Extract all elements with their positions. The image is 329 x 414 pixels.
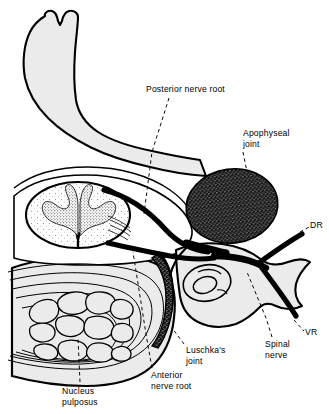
label-anterior-nerve-root-line2: nerve root xyxy=(151,381,191,392)
label-luschka-joint-line2: joint xyxy=(186,356,203,367)
leader-luschka-joint xyxy=(172,328,184,344)
label-luschka-joint-line1: Luschka's xyxy=(186,345,226,356)
label-spinal-nerve-line1: Spinal xyxy=(265,339,290,350)
label-dorsal-ramus: DR xyxy=(310,220,323,231)
label-ventral-ramus: VR xyxy=(305,327,317,338)
transverse-process xyxy=(176,243,310,327)
nucleus-pulposus xyxy=(29,292,133,362)
dorsal-ramus-path xyxy=(260,234,302,262)
label-apophyseal-joint-line2: joint xyxy=(243,139,260,150)
label-nucleus-pulposus-line2: pulposus xyxy=(62,397,98,408)
label-spinal-nerve-line2: nerve xyxy=(265,350,287,361)
label-posterior-nerve-root: Posterior nerve root xyxy=(146,84,225,95)
label-nucleus-pulposus-line1: Nucleus xyxy=(62,386,94,397)
anatomical-figure: Posterior nerve root Apophyseal joint DR… xyxy=(0,0,329,414)
leader-ventral-ramus xyxy=(294,320,304,331)
label-apophyseal-joint-line1: Apophyseal xyxy=(243,128,290,139)
label-anterior-nerve-root-line1: Anterior xyxy=(151,370,182,381)
